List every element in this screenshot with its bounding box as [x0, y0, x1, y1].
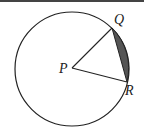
label-q: Q	[114, 12, 124, 27]
label-r: R	[124, 83, 134, 98]
radius-pq	[72, 28, 112, 68]
label-p: P	[58, 61, 68, 76]
circle-diagram: P Q R	[0, 0, 144, 129]
shaded-segment	[112, 28, 129, 82]
radius-pr	[72, 68, 127, 82]
